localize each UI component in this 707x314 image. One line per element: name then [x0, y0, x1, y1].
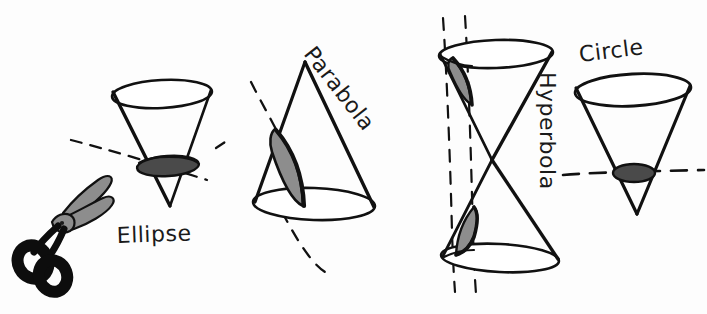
parabola-cone-base [252, 186, 375, 222]
hyperbola-label: Hyperbola [535, 72, 560, 190]
hyperbola-cone-group: Hyperbola [439, 16, 560, 294]
parabola-cone-group: Parabola [216, 42, 380, 272]
diagram-canvas: Ellipse Parabola [0, 0, 707, 314]
ellipse-cone-group: Ellipse [71, 77, 213, 248]
ellipse-cone-rim [111, 77, 212, 110]
circle-cone-rim [574, 71, 692, 109]
ellipse-label: Ellipse [116, 220, 192, 248]
conic-sections-diagram: Ellipse Parabola [0, 0, 707, 314]
parabola-label: Parabola [299, 42, 380, 136]
circle-label: Circle [578, 34, 645, 67]
circle-cone-group: Circle [563, 34, 704, 214]
parabola-cutting-plane [216, 82, 325, 272]
scissors [12, 176, 114, 296]
scissors-handle-loop-2 [34, 256, 71, 296]
circle-cross-section [613, 164, 655, 182]
